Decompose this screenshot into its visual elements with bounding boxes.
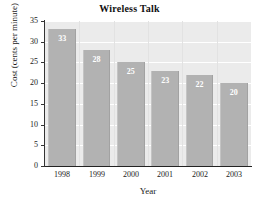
y-axis-tick-label: 0 xyxy=(14,162,38,170)
category-separator xyxy=(114,21,115,166)
y-axis-tick-label: 25 xyxy=(14,58,38,66)
x-axis-tick-label: 2003 xyxy=(214,170,254,180)
y-axis-tick-label: 15 xyxy=(14,100,38,108)
y-axis-tick xyxy=(41,21,45,22)
y-axis-tick xyxy=(41,125,45,126)
y-axis-tick xyxy=(41,104,45,105)
bar-value-label: 28 xyxy=(84,55,109,64)
y-axis-tick xyxy=(41,166,45,167)
category-separator xyxy=(79,21,80,166)
bar: 22 xyxy=(186,75,213,166)
bar-value-label: 33 xyxy=(49,34,74,43)
bar-value-label: 22 xyxy=(187,80,212,89)
bar: 20 xyxy=(220,83,247,166)
y-axis-tick-label: 30 xyxy=(14,38,38,46)
x-axis-tick-label: 1998 xyxy=(42,170,82,180)
y-axis-tick-label: 20 xyxy=(14,79,38,87)
bar-value-label: 23 xyxy=(152,76,177,85)
y-axis-tick xyxy=(41,83,45,84)
y-axis-tick xyxy=(41,62,45,63)
plot-area: 332825232220 xyxy=(45,21,251,166)
category-separator xyxy=(217,21,218,166)
bar: 25 xyxy=(117,62,144,166)
y-axis-tick-label: 5 xyxy=(14,141,38,149)
chart-title: Wireless Talk xyxy=(0,3,259,15)
y-axis-tick-label: 35 xyxy=(14,17,38,25)
x-axis-tick-label: 2001 xyxy=(145,170,185,180)
bar: 33 xyxy=(48,29,75,166)
bar-value-label: 20 xyxy=(221,88,246,97)
bar: 28 xyxy=(83,50,110,166)
bar: 23 xyxy=(151,71,178,166)
x-axis-line xyxy=(44,166,252,167)
y-axis-tick xyxy=(41,42,45,43)
bar-chart-figure: Wireless Talk Cost (cents per minute) 33… xyxy=(0,0,259,204)
y-axis-tick-label: 10 xyxy=(14,121,38,129)
y-axis-tick xyxy=(41,145,45,146)
x-axis-title: Year xyxy=(44,186,252,197)
bar-value-label: 25 xyxy=(118,67,143,76)
category-separator xyxy=(182,21,183,166)
category-separator xyxy=(148,21,149,166)
